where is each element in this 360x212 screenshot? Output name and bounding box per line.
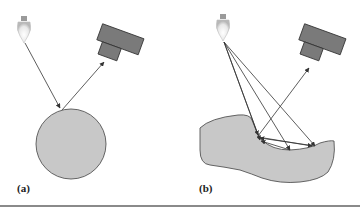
panel-b [200,14,346,183]
camera-icon [92,24,144,67]
sphere-object [36,109,106,179]
incident-ray [25,43,60,108]
bottom-rule [0,205,360,207]
camera-icon [294,24,346,67]
panel-label-a: (a) [17,182,30,194]
light-bulb-icon [17,16,30,43]
figure-graphic [0,0,360,212]
light-bulb-icon [216,14,229,41]
panel-a [17,16,144,179]
reflected-ray [62,62,104,110]
panel-label-b: (b) [199,182,212,194]
irregular-surface-object [200,115,334,183]
figure: (a) (b) [0,0,360,212]
